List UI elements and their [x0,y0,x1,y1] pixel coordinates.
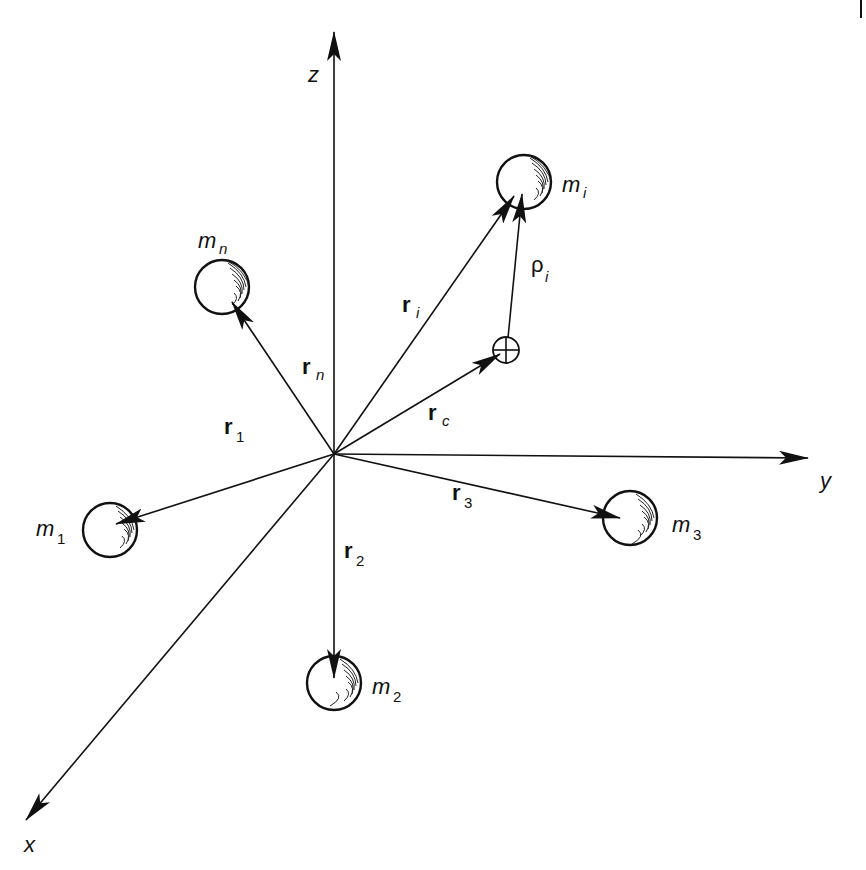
vector-label-ri: r i [402,292,420,321]
vector-r1 [116,454,334,524]
center-of-mass-marker [493,337,519,363]
svg-text:m: m [36,516,54,541]
svg-text:m: m [562,172,580,197]
svg-text:m: m [372,674,390,699]
svg-text:ρ: ρ [531,252,544,277]
svg-text:m: m [198,228,216,253]
svg-text:r: r [302,354,311,379]
vectors [116,194,620,678]
vector-label-rc: r c [428,400,450,429]
vector-label-r1: r 1 [224,414,244,445]
y-axis [334,454,808,458]
mass-label-mi: m i [562,172,587,201]
svg-text:i: i [545,268,549,285]
mass-mi [497,155,552,209]
particle-system-diagram: z y x m i m n m 1 m 2 m 3 r i r n r c r … [0,0,866,870]
vector-label-r2: r 2 [344,538,364,569]
svg-text:n: n [219,240,227,257]
x-axis-label: x [23,832,36,857]
vector-label-rn: r n [302,354,324,383]
vector-r3 [334,454,620,518]
svg-text:i: i [583,184,587,201]
svg-text:c: c [442,412,450,429]
mass-mn [195,260,250,314]
vector-rho-i [508,194,522,338]
svg-text:1: 1 [236,428,244,445]
mass-m3 [603,491,657,545]
y-axis-label: y [818,468,833,493]
z-axis-label: z [307,62,319,87]
vector-rc [334,354,500,454]
mass-label-mn: m n [198,228,227,257]
svg-text:r: r [428,400,437,425]
svg-text:r: r [452,480,461,505]
mass-label-m3: m 3 [672,512,701,543]
svg-text:n: n [316,366,324,383]
svg-text:1: 1 [57,530,65,547]
svg-text:i: i [416,304,420,321]
axes [26,32,808,820]
svg-text:3: 3 [464,494,472,511]
vector-ri [334,196,514,454]
svg-text:2: 2 [356,552,364,569]
svg-text:r: r [224,414,233,439]
svg-text:2: 2 [393,688,401,705]
mass-label-m2: m 2 [372,674,401,705]
x-axis [26,454,334,820]
svg-text:m: m [672,512,690,537]
vector-label-rho-i: ρ i [531,252,549,285]
mass-label-m1: m 1 [36,516,65,547]
svg-text:r: r [344,538,353,563]
svg-text:3: 3 [693,526,701,543]
mass-m1 [83,503,137,557]
svg-text:r: r [402,292,411,317]
